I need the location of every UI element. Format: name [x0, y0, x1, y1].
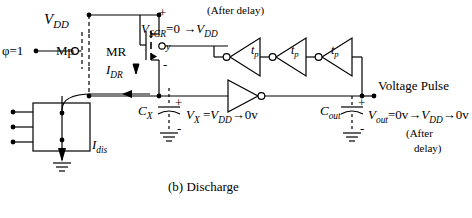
- after-delay-top-annotation: (After delay): [207, 5, 264, 16]
- voltage-pulse-terminal-dot: [372, 94, 377, 99]
- delay-inverter-2-label: tp: [291, 44, 299, 59]
- after-delay-line1: (After: [406, 128, 433, 139]
- transistor-mr-label: MR: [106, 45, 126, 58]
- voltage-pulse-label: Voltage Pulse: [378, 79, 449, 92]
- capacitor-cout-label: Cout: [320, 104, 341, 121]
- delay-inverter-1-label: tp: [251, 44, 259, 59]
- after-delay-line2: delay): [414, 143, 441, 154]
- pdn-input-dot-3: [11, 140, 16, 145]
- node-x-dot-mid: [157, 94, 162, 99]
- delay-inverter-2-bubble: [269, 54, 276, 61]
- phi-terminal-dot: [34, 49, 39, 54]
- vsgr-polarity-minus: -: [163, 58, 167, 71]
- pdn-internal-dot-2: [60, 138, 65, 143]
- pdn-input-dot-1: [11, 110, 16, 115]
- transistor-mp-label: Mp: [56, 44, 74, 57]
- vout-polarity-plus: +: [358, 96, 365, 109]
- idr-arrow-head: [133, 64, 139, 74]
- idis-current-label: Idis: [92, 138, 107, 155]
- vx-value-label: VX =VDD→0v: [186, 108, 258, 125]
- capacitor-cx-label: CX: [138, 104, 152, 121]
- mr-gate-node-label: y: [166, 42, 170, 52]
- idr-current-arrow: [133, 64, 139, 74]
- mr-gate-node-bubble: [159, 43, 165, 49]
- vout-value-label: Vout=0v→VDD→0v: [368, 108, 469, 125]
- vdd-label: VDD: [44, 12, 69, 30]
- vsgr-value-label: VSGR=0 →VDD: [141, 22, 218, 39]
- mr-source-arrow: [151, 53, 157, 60]
- delay-inverter-3-label: tp: [331, 44, 339, 59]
- cout-plate-bottom-curved: [341, 111, 363, 114]
- vsgr-polarity-plus: +: [159, 6, 166, 19]
- figure-discharge-circuit: VDD φ=1 Mp MR y IDR Idis + - VSGR=0 →VDD…: [0, 0, 472, 218]
- vx-polarity-minus: -: [177, 122, 181, 135]
- pdn-internal-dot-1: [60, 111, 65, 116]
- figure-caption: (b) Discharge: [168, 180, 239, 193]
- output-inverter-bubble: [258, 93, 265, 100]
- vout-polarity-minus: -: [360, 122, 364, 135]
- idis-arrow-head: [58, 148, 66, 162]
- pulldown-network-box: [13, 103, 90, 151]
- delay-inverter-1-bubble: [223, 54, 230, 61]
- delay-inverter-2: [260, 38, 306, 76]
- clock-input-label: φ=1: [2, 44, 23, 57]
- pmos-mp-symbol: [72, 15, 89, 96]
- pdn-input-dot-2: [11, 125, 16, 130]
- vx-polarity-plus: +: [175, 96, 182, 109]
- idis-curve-arrowhead: [122, 90, 132, 98]
- pdn-ground-symbol: [53, 163, 71, 171]
- cx-plate-bottom-curved: [158, 111, 180, 114]
- idr-current-label: IDR: [106, 63, 123, 80]
- delay-inverter-3-bubble: [315, 54, 322, 61]
